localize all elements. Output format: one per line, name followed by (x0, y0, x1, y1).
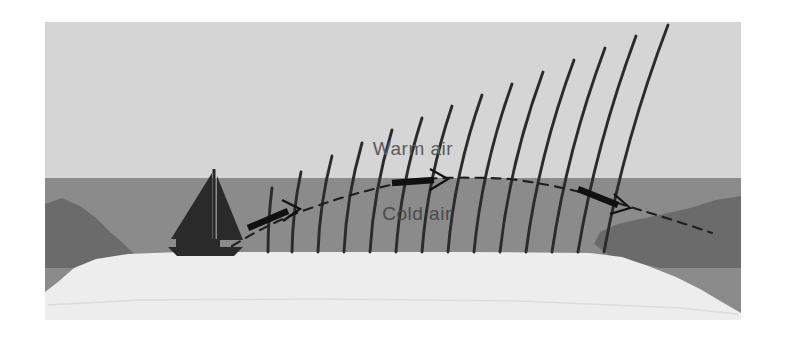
boat-hull (168, 247, 243, 256)
sound-refraction-diagram: Warm air Cold air (0, 0, 785, 343)
ray-arrow-center-shaft (392, 180, 434, 183)
cold-air-label: Cold air (382, 203, 452, 224)
warm-air-label: Warm air (373, 138, 454, 159)
ice-surface (45, 252, 741, 320)
boat-cabin (176, 239, 220, 247)
diagram-canvas: Warm air Cold air (0, 0, 785, 343)
scene-content: Warm air Cold air (45, 22, 741, 320)
